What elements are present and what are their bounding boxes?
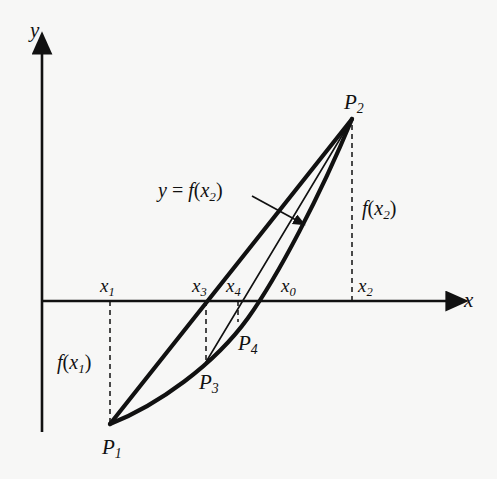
curve-group bbox=[110, 119, 352, 424]
value-label-fx1: f(x1) bbox=[57, 352, 91, 375]
point-sub-p4: 4 bbox=[251, 342, 258, 357]
tick-label-x0: x0 bbox=[281, 276, 296, 298]
fx2-close-paren: ) bbox=[390, 197, 397, 219]
fx2-base: x bbox=[374, 197, 383, 219]
figure-canvas: y x x1 x3 x4 x0 x2 P1 P2 P3 P4 f(x1) f(x… bbox=[0, 0, 497, 479]
fx1-sub: 1 bbox=[78, 361, 85, 376]
point-sub-p2: 2 bbox=[357, 101, 364, 116]
tick-sub-x0: 0 bbox=[289, 285, 295, 299]
chord-p1-p2-path bbox=[110, 119, 352, 424]
equation-sub: 2 bbox=[209, 189, 216, 204]
secant-p3-p2-path bbox=[206, 119, 352, 362]
point-label-p4: P4 bbox=[238, 333, 258, 357]
fx1-close-paren: ) bbox=[85, 351, 92, 373]
point-base-p3: P bbox=[199, 370, 212, 394]
point-base-p4: P bbox=[238, 331, 251, 355]
equation-close-paren: ) bbox=[216, 179, 223, 201]
y-axis-label: y bbox=[30, 20, 39, 41]
fx1-base: x bbox=[69, 351, 78, 373]
tick-sub-x4: 4 bbox=[234, 285, 240, 299]
value-label-fx2: f(x2) bbox=[362, 198, 396, 221]
fx2-sub: 2 bbox=[383, 207, 390, 222]
point-label-p1: P1 bbox=[102, 437, 122, 461]
point-label-p3: P3 bbox=[199, 372, 219, 396]
equation-y: y bbox=[158, 179, 167, 201]
tick-label-x4: x4 bbox=[226, 276, 241, 298]
point-sub-p3: 3 bbox=[212, 381, 219, 396]
point-base-p1: P bbox=[102, 435, 115, 459]
tick-sub-x3: 3 bbox=[200, 285, 206, 299]
tick-label-x2: x2 bbox=[358, 276, 373, 298]
point-sub-p1: 1 bbox=[115, 446, 122, 461]
tick-sub-x2: 2 bbox=[366, 285, 372, 299]
tick-label-x3: x3 bbox=[192, 276, 207, 298]
x-axis-label: x bbox=[464, 290, 473, 311]
figure-vector-layer bbox=[0, 0, 497, 479]
equation-equals: = bbox=[167, 179, 188, 201]
curve-equation-annotation: y = f(x2) bbox=[158, 180, 223, 203]
point-base-p2: P bbox=[344, 90, 357, 114]
tick-label-x1: x1 bbox=[100, 276, 115, 298]
equation-base: x bbox=[200, 179, 209, 201]
axis-group bbox=[42, 52, 448, 432]
tick-sub-x1: 1 bbox=[108, 285, 114, 299]
point-label-p2: P2 bbox=[344, 92, 364, 116]
